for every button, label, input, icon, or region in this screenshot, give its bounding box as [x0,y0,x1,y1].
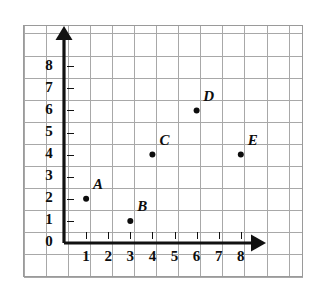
y-axis-tick-labels: 012345678 [45,57,53,250]
x-tick-label: 1 [82,248,90,264]
data-point-d [194,107,200,113]
scatter-plot: 12345678 012345678 ABCDE [0,0,324,295]
x-tick-label: 4 [149,248,157,264]
y-tick-label: 3 [45,167,53,183]
point-label-b: B [136,198,147,214]
point-label-a: A [92,176,103,192]
data-point-e [238,152,244,158]
data-point-b [127,218,133,224]
data-point-a [83,196,89,202]
y-tick-label: 1 [45,211,53,227]
data-point-c [149,152,155,158]
x-tick-label: 2 [104,248,112,264]
y-tick-label: 2 [45,189,53,205]
y-tick-label: 6 [45,101,53,117]
x-tick-label: 6 [193,248,201,264]
point-label-c: C [159,132,170,148]
x-tick-label: 5 [171,248,179,264]
y-tick-label: 7 [45,79,53,95]
y-tick-label: 5 [45,123,53,139]
y-tick-label: 8 [45,57,53,73]
point-label-d: D [202,88,214,104]
x-tick-label: 8 [237,248,245,264]
point-label-e: E [247,132,258,148]
x-tick-label: 3 [127,248,135,264]
coordinate-plane-figure: 12345678 012345678 ABCDE [0,0,324,295]
x-tick-label: 7 [215,248,223,264]
y-tick-label: 4 [45,145,53,161]
y-tick-label: 0 [45,233,53,249]
